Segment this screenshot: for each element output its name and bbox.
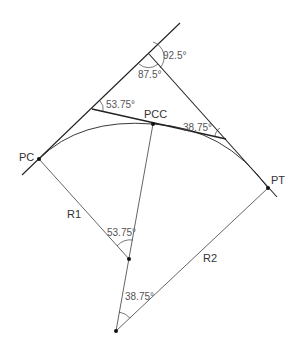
pt-point (266, 186, 270, 190)
angle-exterior-label: 92.5° (163, 50, 186, 61)
back-tangent-line (22, 23, 180, 175)
radius-r2-line (116, 188, 268, 331)
angle-v2-label: 38.75° (183, 122, 212, 133)
pcc-point (151, 122, 155, 126)
pt-label: PT (271, 174, 285, 186)
angle-arc-v1 (100, 101, 103, 111)
curve-arc-1 (39, 123, 153, 159)
r1-label: R1 (67, 208, 81, 220)
pcc-label: PCC (144, 108, 167, 120)
angle-arc-central-1 (117, 240, 133, 246)
curve-arc-2 (153, 124, 268, 188)
radius-r1-line (39, 159, 129, 259)
compound-curve-diagram: PC PCC PT R1 R2 92.5° 87.5° 53.75° 38.75… (0, 0, 302, 353)
angle-central-2-label: 38.75° (125, 291, 154, 302)
angle-arc-interior (139, 64, 158, 68)
angle-arc-central-2 (119, 312, 130, 318)
center-o1-point (127, 257, 131, 261)
diagram-canvas: PC PCC PT R1 R2 92.5° 87.5° 53.75° 38.75… (0, 0, 302, 353)
pc-label: PC (19, 151, 34, 163)
angle-central-1-label: 53.75° (107, 227, 136, 238)
angle-v1-label: 53.75° (106, 99, 135, 110)
pc-point (37, 157, 41, 161)
center-o2-point (114, 329, 118, 333)
r2-label: R2 (203, 252, 217, 264)
angle-interior-label: 87.5° (138, 69, 161, 80)
